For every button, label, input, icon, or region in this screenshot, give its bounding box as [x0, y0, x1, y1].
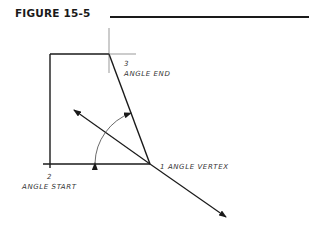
diagonal-arrow-line: [74, 110, 150, 164]
angle-vertex-label: 1 ANGLE VERTEX: [160, 163, 229, 171]
angle-end-number: 3: [124, 60, 129, 68]
diagonal-arrow-line-lower: [150, 164, 226, 217]
angle-start-number: 2: [47, 173, 52, 181]
angle-start-label: ANGLE START: [21, 183, 77, 191]
angle-dimension-diagram: 1 ANGLE VERTEX 2 ANGLE START 3 ANGLE END: [0, 0, 324, 237]
angle-end-label: ANGLE END: [123, 70, 170, 78]
